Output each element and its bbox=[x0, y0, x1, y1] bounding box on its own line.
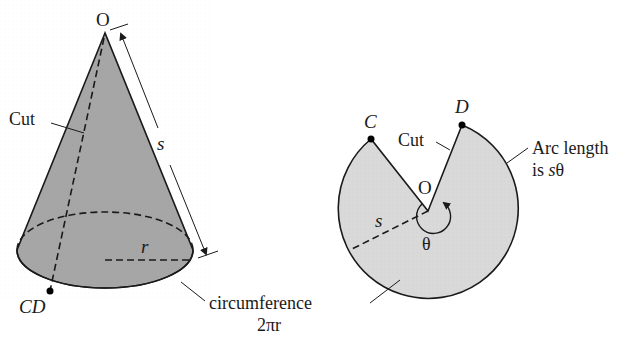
cone: O Cut s r CD circumference 2πr bbox=[0, 0, 312, 335]
point-cd-label: CD bbox=[19, 296, 46, 317]
sector: C D Cut O s θ Arc length is sθ bbox=[338, 96, 608, 303]
point-d bbox=[459, 122, 466, 129]
point-cd bbox=[47, 288, 54, 295]
radius-label: r bbox=[141, 236, 149, 257]
point-d-label: D bbox=[454, 96, 469, 117]
slant-label: s bbox=[157, 133, 164, 154]
cone-cut-label: Cut bbox=[9, 109, 35, 129]
arc-length-label-line2: is sθ bbox=[532, 160, 564, 180]
cone-sector-figure: O Cut s r CD circumference 2πr C D Cut O… bbox=[0, 0, 632, 343]
circumference-formula: 2πr bbox=[257, 315, 281, 335]
point-c bbox=[368, 136, 375, 143]
cone-body bbox=[17, 33, 193, 288]
arc-length-label-line1: Arc length bbox=[532, 138, 608, 158]
sector-radius-label: s bbox=[375, 210, 382, 231]
apex-label: O bbox=[96, 9, 110, 30]
point-c-label: C bbox=[364, 111, 377, 132]
sector-cut-label: Cut bbox=[398, 130, 424, 150]
sector-center-label: O bbox=[418, 177, 432, 198]
circumference-label: circumference bbox=[209, 293, 312, 313]
theta-label: θ bbox=[422, 234, 431, 254]
diagram-canvas: O Cut s r CD circumference 2πr C D Cut O… bbox=[0, 0, 632, 343]
